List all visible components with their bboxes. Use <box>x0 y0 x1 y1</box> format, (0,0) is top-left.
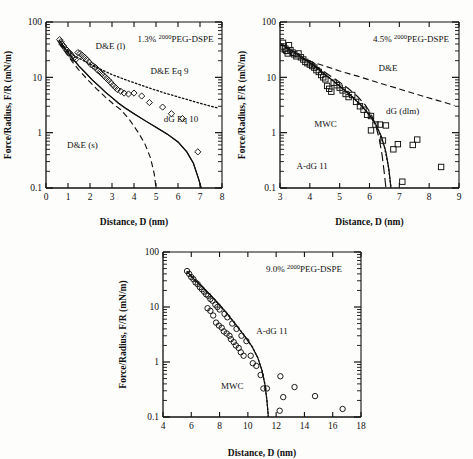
x-tick-label: 4 <box>307 192 312 202</box>
data-points-panel-a <box>57 37 201 155</box>
x-axis-title: Distance, D (nm) <box>228 448 296 459</box>
x-tick-label: 18 <box>356 421 366 431</box>
curve-annotation: D&E (l) <box>96 41 126 51</box>
panel-c-plot: 46810121416180.1110100A-dG 11MWC9.0% 200… <box>115 230 375 459</box>
x-tick-label: 8 <box>427 192 432 202</box>
y-axis-title: Force/Radius, F/R (mN/m) <box>3 51 14 159</box>
y-tick-label: 100 <box>262 17 277 27</box>
y-tick-label: 100 <box>145 247 160 257</box>
x-tick-label: 12 <box>271 421 281 431</box>
x-tick-label: 2 <box>88 192 93 202</box>
x-axis-title: Distance, D (nm) <box>335 217 403 228</box>
curve-annotation: MWC <box>314 119 337 129</box>
x-tick-label: 5 <box>337 192 342 202</box>
x-tick-label: 8 <box>217 421 222 431</box>
x-tick-label: 4 <box>132 192 137 202</box>
x-tick-label: 9 <box>457 192 462 202</box>
curve-annotation: A-dG 11 <box>296 161 327 171</box>
y-tick-label: 10 <box>33 73 43 83</box>
curve-mwc <box>187 272 268 417</box>
x-tick-label: 6 <box>176 192 181 202</box>
panel-b-plot: 34567890.1110100D&EdG (dlm)MWCA-dG 114.5… <box>234 0 473 228</box>
panel-1-3-percent: 0123456780.1110100D&E (l)D&E Eq 9dG Eq 1… <box>0 0 234 228</box>
curve-annotation: D&E <box>378 63 398 73</box>
data-points-panel-c <box>184 268 345 413</box>
x-tick-label: 1 <box>66 192 71 202</box>
curve-annotation: A-dG 11 <box>256 326 287 336</box>
panel-title: 9.0% 2000PEG-DSPE <box>266 263 343 275</box>
y-tick-label: 10 <box>150 302 160 312</box>
y-tick-label: 1 <box>271 128 276 138</box>
curve-annotation: D&E (s) <box>67 140 98 150</box>
curve-annotation: dG Eq 10 <box>164 114 199 124</box>
x-tick-label: 7 <box>397 192 402 202</box>
y-tick-label: 10 <box>267 73 277 83</box>
figure-container: 0123456780.1110100D&E (l)D&E Eq 9dG Eq 1… <box>0 0 473 459</box>
panel-title: 1.3% 2000PEG-DSPE <box>138 33 215 45</box>
y-axis-title: Force/Radius, F/R (mN/m) <box>118 280 129 388</box>
y-axis-title: Force/Radius, F/R (mN/m) <box>237 51 248 159</box>
y-tick-label: 0.1 <box>30 183 42 193</box>
y-tick-label: 100 <box>28 17 43 27</box>
x-tick-label: 10 <box>243 421 253 431</box>
y-tick-label: 1 <box>37 128 42 138</box>
curve-annotation: dG (dlm) <box>386 106 419 116</box>
x-tick-label: 5 <box>154 192 159 202</box>
x-tick-label: 0 <box>44 192 49 202</box>
curve-d-e-s- <box>59 43 156 188</box>
panel-title: 4.5% 2000PEG-DSPE <box>373 33 450 45</box>
curve-annotation: MWC <box>221 381 244 391</box>
x-tick-label: 7 <box>198 192 203 202</box>
y-tick-label: 0.1 <box>264 183 276 193</box>
curve-a-dg-11 <box>187 272 268 417</box>
x-tick-label: 4 <box>161 421 166 431</box>
panel-4-5-percent: 34567890.1110100D&EdG (dlm)MWCA-dG 114.5… <box>234 0 473 228</box>
panel-a-plot: 0123456780.1110100D&E (l)D&E Eq 9dG Eq 1… <box>0 0 234 228</box>
x-axis-title: Distance, D (nm) <box>100 217 168 228</box>
panel-9-0-percent: 46810121416180.1110100A-dG 11MWC9.0% 200… <box>115 230 375 459</box>
y-tick-label: 1 <box>154 357 159 367</box>
x-tick-label: 3 <box>278 192 283 202</box>
x-tick-label: 3 <box>110 192 115 202</box>
curve-annotation: D&E Eq 9 <box>151 66 189 76</box>
y-tick-label: 0.1 <box>147 412 159 422</box>
x-tick-label: 6 <box>189 421 194 431</box>
x-tick-label: 6 <box>367 192 372 202</box>
curve-d-e <box>281 52 454 106</box>
x-tick-label: 14 <box>300 421 310 431</box>
x-tick-label: 16 <box>328 421 338 431</box>
x-tick-label: 8 <box>220 192 225 202</box>
